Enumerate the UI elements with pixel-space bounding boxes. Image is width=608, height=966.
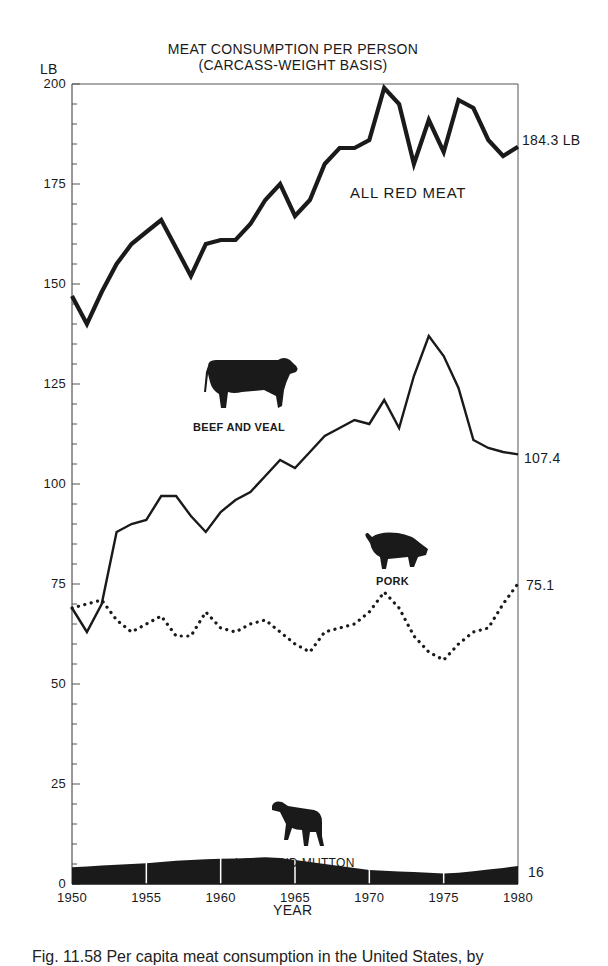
y-tick-label: 50 [32,676,66,691]
x-tick-label: 1980 [498,890,538,905]
y-tick-label: 200 [32,76,66,91]
chart-title: MEAT CONSUMPTION PER PERSON [143,41,443,57]
x-tick-label: 1975 [424,890,464,905]
pig-icon [364,531,430,575]
y-tick-label: 125 [32,376,66,391]
y-tick-label: 25 [32,776,66,791]
lamb-icon [270,800,326,852]
lamb-and-mutton-label: LAMB AND MUTTON [235,856,355,870]
x-axis-label: YEAR [273,902,312,918]
lamb-end-value: 16 [528,864,544,880]
x-tick-label: 1950 [52,890,92,905]
all-red-meat-label: ALL RED MEAT [350,184,466,201]
y-tick-label: 100 [32,476,66,491]
pork-line [72,584,518,660]
x-tick-label: 1960 [201,890,241,905]
pork-end-value: 75.1 [526,577,554,593]
all-red-meat-end-value: 184.3 LB [522,132,580,148]
all-red-meat-line [72,88,518,324]
y-tick-label: 150 [32,276,66,291]
pork-label: PORK [376,575,409,587]
chart-subtitle: (CARCASS-WEIGHT BASIS) [143,57,443,73]
y-tick-label: 175 [32,176,66,191]
y-axis-unit-label: LB [40,61,58,77]
beef-and-veal-label: BEEF AND VEAL [193,421,285,433]
y-tick-label: 0 [32,876,66,891]
y-tick-label: 75 [32,576,66,591]
beef-end-value: 107.4 [524,450,561,466]
x-tick-label: 1955 [126,890,166,905]
x-tick-label: 1970 [349,890,389,905]
cow-icon [204,356,300,416]
figure-caption: Fig. 11.58 Per capita meat consumption i… [32,948,484,966]
